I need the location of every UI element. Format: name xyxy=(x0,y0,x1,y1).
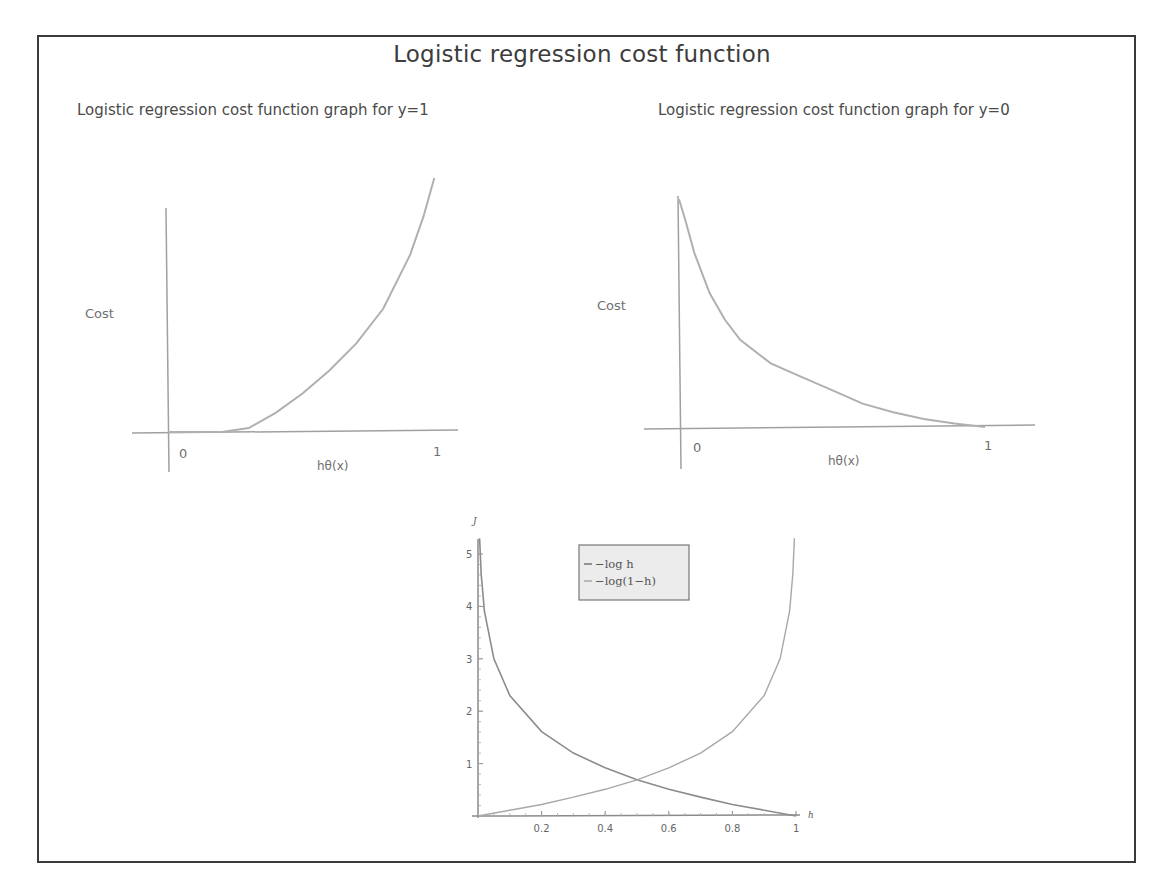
y-tick-label: 1 xyxy=(466,759,472,770)
bottom-chart: 123450.20.40.60.81 J h −log h −log(1−h) xyxy=(466,516,814,834)
legend-box xyxy=(579,545,689,600)
left-x-tick-1: 1 xyxy=(433,444,441,459)
left-chart: Cost 0 1 hθ(x) xyxy=(85,178,458,473)
x-tick-label: 0.4 xyxy=(597,823,613,834)
left-x-tick-0: 0 xyxy=(179,446,187,461)
right-xlabel: hθ(x) xyxy=(828,454,859,468)
y-tick-label: 5 xyxy=(466,549,472,560)
right-cost-curve xyxy=(679,199,985,427)
left-cost-curve xyxy=(168,178,434,432)
bottom-x-axis xyxy=(472,815,800,816)
left-ylabel: Cost xyxy=(85,306,114,321)
x-tick-label: 0.8 xyxy=(724,823,740,834)
x-tick-label: 1 xyxy=(793,823,799,834)
bottom-ylabel: J xyxy=(471,516,478,526)
legend: −log h −log(1−h) xyxy=(579,545,689,600)
legend-label-1: −log h xyxy=(595,557,634,571)
legend-label-2: −log(1−h) xyxy=(595,574,656,588)
plots-canvas: Cost 0 1 hθ(x) Cost 0 1 hθ(x) 123450.20.… xyxy=(0,0,1164,893)
right-x-tick-1: 1 xyxy=(984,438,992,453)
bottom-xlabel: h xyxy=(808,810,814,820)
right-chart: Cost 0 1 hθ(x) xyxy=(597,196,1035,469)
x-tick-label: 0.2 xyxy=(534,823,550,834)
y-tick-label: 4 xyxy=(466,601,472,612)
left-xlabel: hθ(x) xyxy=(317,459,348,473)
right-ylabel: Cost xyxy=(597,298,626,313)
y-tick-label: 2 xyxy=(466,706,472,717)
y-tick-label: 3 xyxy=(466,654,472,665)
right-x-tick-0: 0 xyxy=(693,440,701,455)
x-tick-label: 0.6 xyxy=(661,823,677,834)
